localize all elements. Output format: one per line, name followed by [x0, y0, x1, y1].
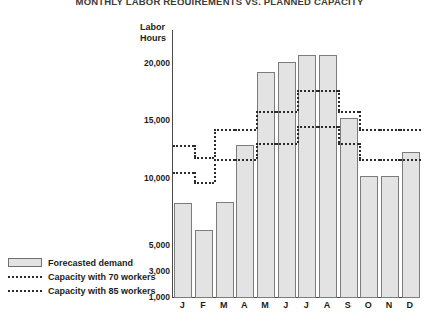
capacity-70-riser	[194, 172, 196, 182]
capacity-85-riser	[338, 90, 340, 111]
capacity-85-segment	[214, 129, 235, 131]
legend-label: Capacity with 70 workers	[48, 272, 156, 282]
chart-figure: MONTHLY LABOR REQUIREMENTS VS. PLANNED C…	[0, 0, 439, 329]
capacity-85-segment	[297, 90, 318, 92]
capacity-70-segment	[318, 126, 339, 128]
capacity-85-riser	[359, 111, 361, 129]
bar-d-11	[402, 152, 420, 298]
y-tick-label: 20,000	[144, 58, 170, 68]
capacity-70-segment	[297, 126, 318, 128]
capacity-70-segment	[194, 182, 215, 184]
bar-n-10	[381, 176, 399, 298]
x-tick-label-june: J	[275, 300, 296, 310]
capacity-70-riser	[359, 143, 361, 159]
capacity-85-riser	[194, 145, 196, 157]
bar-m-4	[257, 72, 275, 298]
x-tick-label-august: A	[317, 300, 338, 310]
chart-title: MONTHLY LABOR REQUIREMENTS VS. PLANNED C…	[0, 0, 439, 5]
y-tick-label: 10,000	[144, 173, 170, 183]
capacity-70-segment	[214, 159, 235, 161]
capacity-70-riser	[256, 143, 258, 159]
x-tick-label-september: S	[337, 300, 358, 310]
capacity-70-segment	[380, 159, 401, 161]
bar-j-0	[174, 203, 192, 298]
x-tick-label-december: D	[399, 300, 420, 310]
legend-bar-swatch-icon	[8, 258, 42, 267]
capacity-70-segment	[276, 143, 297, 145]
plot-inner	[173, 30, 420, 297]
capacity-70-segment	[359, 159, 380, 161]
x-tick-label-october: O	[358, 300, 379, 310]
legend-label: Forecasted demand	[48, 258, 133, 268]
bar-o-9	[360, 176, 378, 298]
x-tick-label-april: A	[234, 300, 255, 310]
capacity-85-segment	[276, 111, 297, 113]
y-tick-label: 5,000	[149, 240, 170, 250]
plot-area	[172, 30, 420, 298]
capacity-85-riser	[297, 90, 299, 111]
capacity-85-segment	[235, 129, 256, 131]
bar-m-2	[216, 202, 234, 298]
capacity-70-segment	[256, 143, 277, 145]
capacity-85-segment	[400, 129, 421, 131]
capacity-70-segment	[400, 159, 421, 161]
capacity-85-segment	[318, 90, 339, 92]
capacity-85-segment	[256, 111, 277, 113]
x-tick-label-february: F	[193, 300, 214, 310]
x-tick-label-november: N	[379, 300, 400, 310]
x-axis-ticks: JFMAMJJASOND	[172, 300, 420, 318]
y-tick-label: 15,000	[144, 115, 170, 125]
capacity-85-riser	[256, 111, 258, 129]
capacity-85-segment	[173, 145, 194, 147]
capacity-70-riser	[297, 126, 299, 143]
chart-legend: Forecasted demandCapacity with 70 worker…	[8, 256, 168, 298]
x-tick-label-may: M	[255, 300, 276, 310]
legend-item-2: Capacity with 85 workers	[8, 284, 168, 297]
capacity-85-segment	[194, 157, 215, 159]
legend-label: Capacity with 85 workers	[48, 286, 156, 296]
legend-item-1: Capacity with 70 workers	[8, 270, 168, 283]
capacity-85-riser	[214, 129, 216, 157]
legend-item-0: Forecasted demand	[8, 256, 168, 269]
bar-a-3	[236, 145, 254, 298]
legend-dotted-swatch-icon	[8, 290, 42, 292]
bar-j-5	[278, 62, 296, 298]
legend-dotted-swatch-icon	[8, 276, 42, 278]
capacity-85-segment	[380, 129, 401, 131]
capacity-85-segment	[359, 129, 380, 131]
capacity-70-segment	[338, 143, 359, 145]
capacity-85-segment	[338, 111, 359, 113]
capacity-70-segment	[235, 159, 256, 161]
capacity-70-riser	[338, 126, 340, 143]
capacity-70-riser	[214, 159, 216, 181]
x-tick-label-march: M	[213, 300, 234, 310]
bar-f-1	[195, 230, 213, 298]
capacity-70-segment	[173, 172, 194, 174]
x-tick-label-january: J	[172, 300, 193, 310]
x-tick-label-july: J	[296, 300, 317, 310]
